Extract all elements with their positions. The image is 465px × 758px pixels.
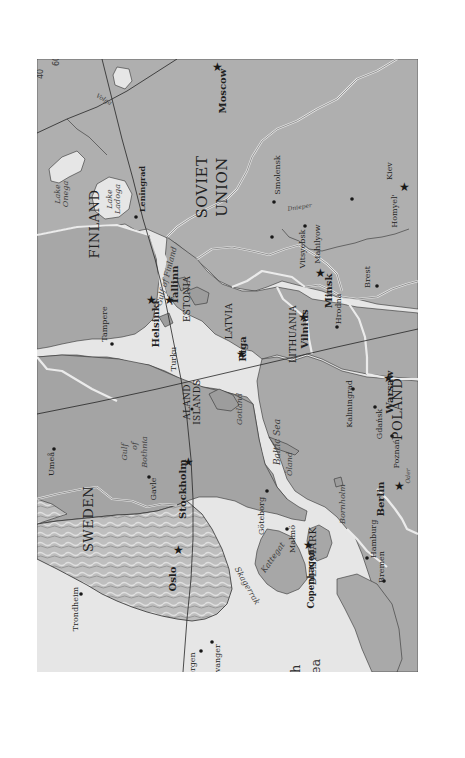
baltic-map: 60 40 ★ ★ ★ ★ ★ ★ ★ ★ ★ ★ ★ ★: [37, 59, 418, 672]
map-frame: 60 40 ★ ★ ★ ★ ★ ★ ★ ★ ★ ★ ★ ★: [37, 59, 418, 672]
texture-overlay: [37, 59, 418, 672]
